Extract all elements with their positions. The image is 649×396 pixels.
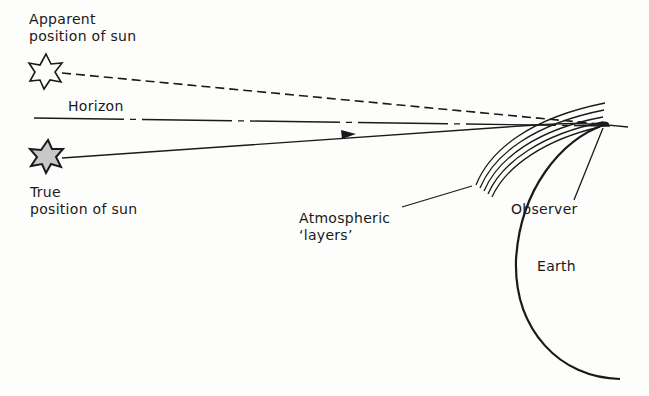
apparent-label-line2: position of sun — [29, 28, 136, 45]
true-position-label: True position of sun — [30, 184, 137, 218]
atmos-label-line2: ‘layers’ — [299, 227, 390, 244]
atmos-leader-line — [402, 186, 472, 207]
observer-point — [599, 122, 609, 127]
true-label-line1: True — [30, 184, 137, 201]
apparent-position-label: Apparent position of sun — [29, 11, 136, 45]
earth-label: Earth — [537, 258, 576, 275]
apparent-ray — [62, 73, 600, 124]
atmospheric-layers — [476, 103, 605, 197]
true-label-line2: position of sun — [30, 201, 137, 218]
apparent-label-line1: Apparent — [29, 11, 136, 28]
horizon-label: Horizon — [68, 98, 124, 115]
atmos-label-line1: Atmospheric — [299, 210, 390, 227]
apparent-sun-star-icon — [29, 54, 62, 89]
horizon-line — [34, 118, 610, 126]
true-sun-star-icon — [30, 140, 63, 173]
atmospheric-layers-label: Atmospheric ‘layers’ — [299, 210, 390, 244]
earth-surface-arc — [516, 124, 620, 379]
observer-label: Observer — [511, 201, 578, 218]
